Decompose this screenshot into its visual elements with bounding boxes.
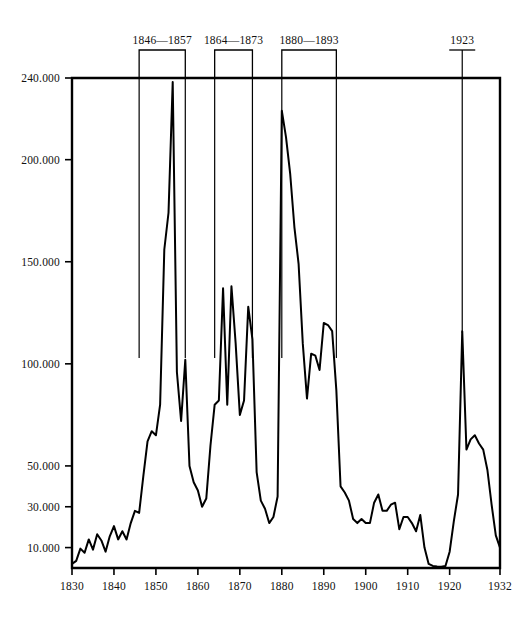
x-tick-label: 1910 [396, 580, 420, 592]
year-marker-label: 1923 [450, 34, 474, 46]
x-tick-label: 1880 [270, 580, 294, 592]
y-tick-label: 10.000 [27, 542, 60, 554]
period-bracket-label: 1880—1893 [279, 34, 338, 46]
period-bracket-label: 1846—1857 [133, 34, 192, 46]
x-tick-label: 1920 [438, 580, 462, 592]
emigration-line-chart: 1846—18571864—18731880—18931923 10.00030… [0, 0, 530, 623]
x-tick-label: 1840 [102, 580, 126, 592]
chart-background [0, 0, 530, 623]
y-tick-label: 30.000 [27, 501, 60, 513]
y-tick-label: 50.000 [27, 460, 60, 472]
x-tick-label: 1870 [228, 580, 252, 592]
x-tick-label: 1900 [354, 580, 378, 592]
y-tick-label: 100.000 [21, 358, 60, 370]
x-tick-label: 1860 [186, 580, 210, 592]
x-tick-label: 1830 [60, 580, 84, 592]
y-tick-label: 150.000 [21, 256, 60, 268]
period-bracket-label: 1864—1873 [204, 34, 263, 46]
chart-figure: 1846—18571864—18731880—18931923 10.00030… [0, 0, 530, 623]
y-tick-label: 200.000 [21, 154, 60, 166]
y-tick-label: 240.000 [21, 72, 60, 84]
x-tick-label: 1850 [144, 580, 168, 592]
x-tick-label: 1932 [488, 580, 512, 592]
x-tick-label: 1890 [312, 580, 336, 592]
